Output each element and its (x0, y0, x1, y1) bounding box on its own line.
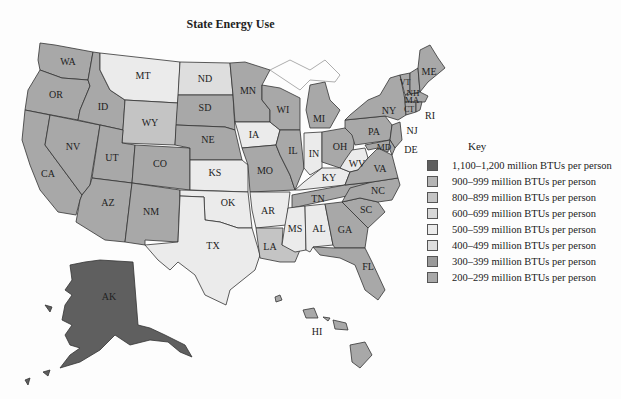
legend-swatch (427, 160, 438, 171)
label-ct: CT (404, 105, 414, 114)
label-ut: UT (105, 152, 118, 163)
ak-island (43, 370, 50, 376)
label-de: DE (404, 144, 417, 155)
state-ak[interactable] (60, 260, 192, 368)
legend-item: 600–699 million BTUs per person (427, 205, 612, 221)
legend-label: 1,100–1,200 million BTUs per person (452, 160, 612, 171)
legend-swatch (427, 240, 438, 251)
legend-label: 900–999 million BTUs per person (452, 176, 596, 187)
legend-label: 200–299 million BTUs per person (452, 272, 596, 283)
legend-item: 400–499 million BTUs per person (427, 237, 612, 253)
legend-swatch (427, 208, 438, 219)
label-id: ID (98, 101, 109, 112)
label-ne: NE (201, 134, 214, 145)
legend-swatch (427, 256, 438, 267)
label-wa: WA (60, 56, 76, 67)
label-nc: NC (371, 185, 385, 196)
label-fl: FL (362, 261, 374, 272)
label-mt: MT (136, 70, 151, 81)
label-il: IL (288, 145, 297, 156)
label-ar: AR (261, 205, 275, 216)
legend-label: 600–699 million BTUs per person (452, 208, 596, 219)
label-or: OR (49, 89, 63, 100)
label-la: LA (263, 241, 277, 252)
legend-item: 200–299 million BTUs per person (427, 270, 612, 286)
label-ma: MA (405, 95, 420, 105)
label-wv: WV (349, 158, 366, 169)
legend-item: 800–899 million BTUs per person (427, 189, 612, 205)
label-nd: ND (198, 73, 212, 84)
legend-title: Key (468, 140, 486, 152)
legend-item: 1,100–1,200 million BTUs per person (427, 157, 612, 173)
label-pa: PA (368, 126, 381, 137)
label-sc: SC (360, 204, 373, 215)
label-nm: NM (143, 206, 159, 217)
label-vt: VT (400, 78, 411, 87)
label-tn: TN (311, 193, 324, 204)
legend-swatch (427, 224, 438, 235)
label-mo: MO (257, 165, 273, 176)
legend-label: 500–599 million BTUs per person (452, 224, 596, 235)
label-nv: NV (66, 141, 81, 152)
legend-swatch (427, 192, 438, 203)
legend-item: 500–599 million BTUs per person (427, 221, 612, 237)
label-ny: NY (382, 105, 396, 116)
label-wi: WI (277, 104, 290, 115)
label-ia: IA (249, 129, 260, 140)
hi-island (275, 295, 282, 302)
ak-island (45, 305, 52, 312)
label-wy: WY (142, 117, 159, 128)
label-sd: SD (199, 102, 212, 113)
legend-swatch (427, 176, 438, 187)
label-tx: TX (206, 240, 220, 251)
hi-island (323, 317, 330, 321)
label-ky: KY (322, 172, 336, 183)
legend-label: 800–899 million BTUs per person (452, 192, 596, 203)
state-hi[interactable] (350, 342, 372, 368)
label-hi: HI (312, 326, 323, 337)
legend-label: 400–499 million BTUs per person (452, 240, 596, 251)
label-ms: MS (288, 223, 302, 234)
label-ks: KS (209, 167, 222, 178)
hi-island (333, 320, 348, 330)
legend-label: 300–399 million BTUs per person (452, 256, 596, 267)
state-fl[interactable] (313, 247, 385, 300)
label-co: CO (153, 158, 167, 169)
legend-item: 300–399 million BTUs per person (427, 254, 612, 270)
legend: 1,100–1,200 million BTUs per person 900–… (427, 157, 612, 286)
label-ca: CA (41, 168, 56, 179)
legend-swatch (427, 272, 438, 283)
label-ok: OK (221, 197, 236, 208)
label-ak: AK (102, 291, 117, 302)
label-al: AL (312, 223, 325, 234)
state-ny[interactable] (345, 75, 406, 120)
label-mi: MI (313, 113, 325, 124)
label-in: IN (309, 148, 320, 159)
legend-item: 900–999 million BTUs per person (427, 173, 612, 189)
label-me: ME (422, 66, 437, 77)
label-mn: MN (240, 85, 256, 96)
label-oh: OH (333, 141, 347, 152)
label-ri: RI (425, 110, 435, 121)
label-va: VA (373, 163, 387, 174)
label-nj: NJ (406, 125, 417, 136)
label-ga: GA (338, 224, 353, 235)
label-md: MD (377, 142, 392, 152)
ak-island (25, 378, 30, 385)
hi-island (303, 308, 318, 318)
label-az: AZ (101, 197, 114, 208)
